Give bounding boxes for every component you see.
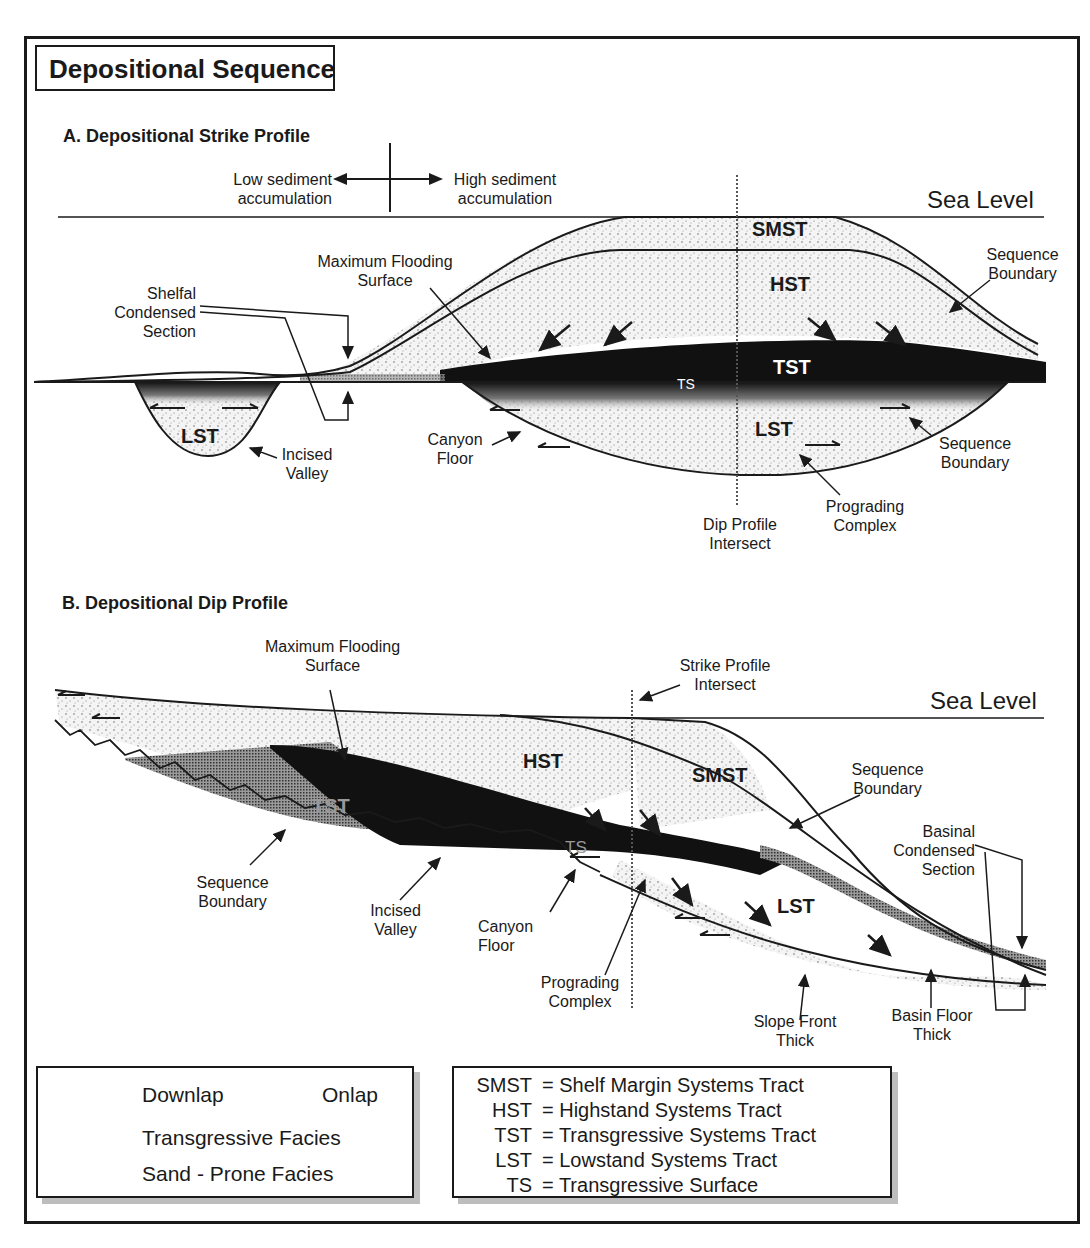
abbr-meaning: = Highstand Systems Tract	[542, 1099, 782, 1122]
label-line: Valley	[358, 920, 433, 939]
label-line: Basin Floor	[882, 1006, 982, 1025]
sea-level-label-a: Sea Level	[927, 186, 1034, 214]
section-b-heading: B. Depositional Dip Profile	[62, 593, 288, 614]
label-line: Prograding	[530, 973, 630, 992]
label-sequence-boundary-upper-a: Sequence Boundary	[975, 245, 1070, 283]
label-line: Prograding	[815, 497, 915, 516]
label-line: Strike Profile	[670, 656, 780, 675]
label-line: Condensed	[880, 841, 975, 860]
tract-tst-a: TST	[773, 356, 811, 379]
tract-lst-b: LST	[777, 895, 815, 918]
abbr-key: LST	[454, 1149, 532, 1172]
label-line: Canyon	[478, 917, 548, 936]
label-canyon-floor-a: Canyon Floor	[420, 430, 490, 468]
abbr-meaning: = Shelf Margin Systems Tract	[542, 1074, 804, 1097]
section-a-heading: A. Depositional Strike Profile	[63, 126, 310, 147]
label-slope-front-thick: Slope Front Thick	[745, 1012, 845, 1050]
label-line: Thick	[882, 1025, 982, 1044]
label-line: Maximum Flooding	[245, 637, 420, 656]
legend-abbreviations: SMST = Shelf Margin Systems Tract HST = …	[452, 1066, 892, 1198]
legend-transgressive-facies-label: Transgressive Facies	[142, 1126, 341, 1150]
label-line: Basinal	[880, 822, 975, 841]
tract-ts-b: TS	[565, 838, 587, 858]
label-strike-profile-intersect: Strike Profile Intersect	[670, 656, 780, 694]
abbr-key: HST	[454, 1099, 532, 1122]
sea-level-label-b: Sea Level	[930, 687, 1037, 715]
label-line: Thick	[745, 1031, 845, 1050]
label-line: Dip Profile	[690, 515, 790, 534]
label-line: Valley	[272, 464, 342, 483]
label-line: Surface	[245, 656, 420, 675]
label-line: Sequence	[975, 245, 1070, 264]
label-line: Intersect	[670, 675, 780, 694]
label-line: Sequence	[925, 434, 1025, 453]
legend-downlap-label: Downlap	[142, 1083, 224, 1107]
label-basin-floor-thick: Basin Floor Thick	[882, 1006, 982, 1044]
label-incised-valley-a: Incised Valley	[272, 445, 342, 483]
label-line: Incised	[358, 901, 433, 920]
legend-onlap-label: Onlap	[322, 1083, 378, 1107]
label-line: Sequence	[185, 873, 280, 892]
label-line: Floor	[478, 936, 548, 955]
label-line: Boundary	[925, 453, 1025, 472]
label-prograding-complex-a: Prograding Complex	[815, 497, 915, 535]
tract-smst-a: SMST	[752, 218, 808, 241]
label-basinal-condensed-section: Basinal Condensed Section	[880, 822, 975, 879]
abbr-meaning: = Transgressive Surface	[542, 1174, 758, 1197]
label-line: Sequence	[840, 760, 935, 779]
label-line: Maximum Flooding	[300, 252, 470, 271]
sediment-axis-icon	[333, 143, 443, 212]
label-line: Boundary	[185, 892, 280, 911]
label-line: Incised	[272, 445, 342, 464]
axis-high-sediment-label: High sediment accumulation	[440, 170, 570, 208]
label-maximum-flooding-surface-b: Maximum Flooding Surface	[245, 637, 420, 675]
label-prograding-complex-b: Prograding Complex	[530, 973, 630, 1011]
label-line: Floor	[420, 449, 490, 468]
label-line: Surface	[300, 271, 470, 290]
tract-ts-a: TS	[677, 376, 695, 392]
abbr-key: TST	[454, 1124, 532, 1147]
legend-sand-prone-facies-label: Sand - Prone Facies	[142, 1162, 333, 1186]
tract-smst-b: SMST	[692, 764, 748, 787]
label-line: Condensed	[90, 303, 196, 322]
abbr-key: TS	[454, 1174, 532, 1197]
tract-hst-a: HST	[770, 273, 810, 296]
tract-lst-canyon: LST	[755, 418, 793, 441]
label-canyon-floor-b: Canyon Floor	[478, 917, 548, 955]
tract-tst-b: TST	[312, 795, 350, 818]
abbr-key: SMST	[454, 1074, 532, 1097]
axis-low-sediment-label: Low sediment accumulation	[212, 170, 332, 208]
label-maximum-flooding-surface-a: Maximum Flooding Surface	[300, 252, 470, 290]
label-shelfal-condensed-section: Shelfal Condensed Section	[90, 284, 196, 341]
label-dip-profile-intersect: Dip Profile Intersect	[690, 515, 790, 553]
label-line: Shelfal	[90, 284, 196, 303]
label-line: Complex	[815, 516, 915, 535]
label-incised-valley-b: Incised Valley	[358, 901, 433, 939]
label-line: Complex	[530, 992, 630, 1011]
label-sequence-boundary-lower-a: Sequence Boundary	[925, 434, 1025, 472]
axis-high-line1: High sediment	[440, 170, 570, 189]
label-line: Intersect	[690, 534, 790, 553]
axis-low-line1: Low sediment	[212, 170, 332, 189]
axis-high-line2: accumulation	[440, 189, 570, 208]
label-line: Canyon	[420, 430, 490, 449]
abbr-meaning: = Transgressive Systems Tract	[542, 1124, 816, 1147]
label-line: Boundary	[975, 264, 1070, 283]
tract-lst-valley: LST	[181, 425, 219, 448]
axis-low-line2: accumulation	[212, 189, 332, 208]
label-line: Slope Front	[745, 1012, 845, 1031]
label-sequence-boundary-b-left: Sequence Boundary	[185, 873, 280, 911]
abbr-meaning: = Lowstand Systems Tract	[542, 1149, 777, 1172]
label-line: Section	[880, 860, 975, 879]
label-line: Section	[90, 322, 196, 341]
label-line: Boundary	[840, 779, 935, 798]
tract-hst-b: HST	[523, 750, 563, 773]
label-sequence-boundary-b-right: Sequence Boundary	[840, 760, 935, 798]
